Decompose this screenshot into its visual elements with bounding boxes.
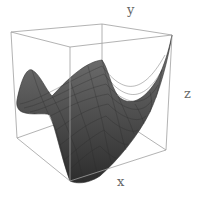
surface-plot <box>0 0 202 197</box>
surface <box>17 35 172 183</box>
z-axis-label: z <box>184 87 191 100</box>
y-axis-label: y <box>127 3 134 16</box>
x-axis-label: x <box>117 175 124 188</box>
